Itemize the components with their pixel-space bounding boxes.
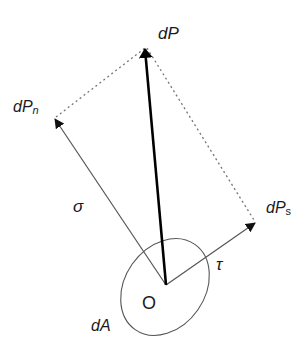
resultant-arrow xyxy=(145,49,166,285)
label-sigma: σ xyxy=(73,197,84,216)
label-origin: O xyxy=(142,293,156,313)
label-dps-sub: s xyxy=(286,205,292,217)
label-dps-main: dP xyxy=(266,199,286,216)
normal-component-arrow xyxy=(55,119,166,285)
label-dps: dPs xyxy=(266,199,292,217)
label-da: dA xyxy=(91,317,111,334)
label-dp: dP xyxy=(158,24,179,43)
dotted-line-dpn-to-dp xyxy=(56,48,145,117)
shear-component-arrow xyxy=(166,223,255,285)
label-dpn: dPn xyxy=(13,98,39,116)
area-element-ellipse xyxy=(102,221,227,352)
label-tau: τ xyxy=(216,255,224,274)
dotted-line-dp-to-dps xyxy=(147,48,254,220)
label-dpn-main: dP xyxy=(13,98,33,115)
stress-diagram: dP dPn dPs σ τ O dA xyxy=(0,0,306,356)
label-dpn-sub: n xyxy=(33,104,39,116)
